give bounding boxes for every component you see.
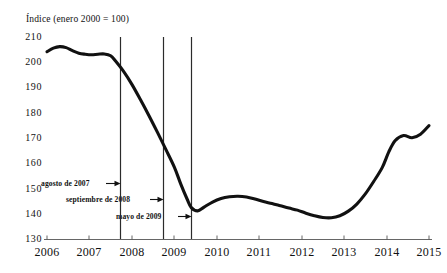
annotation-arrow-septiembre-2008 — [150, 197, 164, 203]
chart-figure: Índice (enero 2000 = 100) 210 200 190 18… — [0, 0, 447, 273]
annotation-arrow-mayo-2009 — [178, 214, 192, 220]
annotation-arrow-agosto-2007 — [106, 181, 121, 187]
data-series-line — [47, 47, 429, 218]
x-axis — [44, 236, 432, 240]
plot-canvas — [0, 0, 447, 273]
